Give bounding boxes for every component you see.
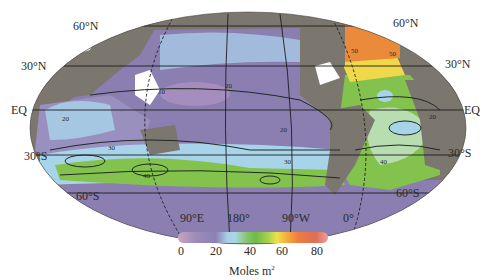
lon-label-0: 0° — [343, 212, 354, 224]
contour-label: 20 — [225, 82, 233, 90]
lat-label-30s-left: 30°S — [24, 150, 47, 162]
lat-label-30n-right: 30°N — [445, 58, 470, 70]
lat-label-60n-right: 60°N — [393, 17, 418, 29]
colorbar-tick-80: 80 — [311, 245, 323, 257]
colorbar-title: Moles m2 — [229, 262, 275, 277]
contour-label: 40 — [380, 158, 388, 166]
colorbar — [178, 232, 328, 243]
contour-label: 30 — [284, 158, 292, 166]
contour-label: 40 — [143, 172, 151, 180]
contour-label: 10 — [158, 88, 166, 96]
atlantic-blue-patch-2 — [377, 90, 393, 102]
lat-label-60s-left: 60°S — [76, 190, 99, 202]
colorbar-tick-20: 20 — [210, 245, 222, 257]
west-pacific-low — [160, 82, 230, 106]
lat-label-60s-right: 60°S — [396, 187, 419, 199]
contour-label: 20 — [429, 113, 437, 121]
colorbar-tick-60: 60 — [276, 245, 288, 257]
contour-label: 20 — [280, 126, 288, 134]
lon-label-90e: 90°E — [180, 212, 204, 224]
colorbar-tick-40: 40 — [244, 245, 256, 257]
lat-label-eq-right: EQ — [464, 104, 480, 116]
colorbar-tick-0: 0 — [178, 245, 184, 257]
lat-label-eq-left: EQ — [11, 104, 27, 116]
lat-label-30n-left: 30°N — [21, 60, 46, 72]
contour-label: 30 — [108, 144, 116, 152]
lat-label-30s-right: 30°S — [448, 147, 471, 159]
lon-label-180: 180° — [227, 212, 250, 224]
contour-label: 50 — [351, 47, 359, 55]
lon-label-90w: 90°W — [282, 212, 310, 224]
contour-label: 50 — [389, 50, 397, 58]
colorbar-title-superscript: 2 — [271, 264, 275, 272]
lat-label-60n-left: 60°N — [73, 20, 98, 32]
contour-label: 20 — [62, 115, 70, 123]
colorbar-title-text: Moles m — [229, 264, 271, 278]
